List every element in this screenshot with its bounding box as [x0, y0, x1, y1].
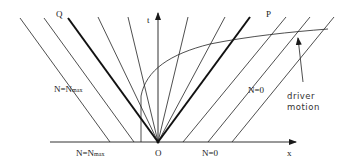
- annotation-motion: motion: [287, 103, 320, 112]
- origin-point: [157, 141, 160, 144]
- label-q: Q: [56, 10, 63, 19]
- label-upper-right-region: N=0: [248, 86, 264, 95]
- label-axis-right-region: N=0: [202, 149, 218, 158]
- label-origin: O: [155, 149, 162, 158]
- fan-characteristics: [98, 17, 225, 142]
- spacetime-diagram: [0, 0, 352, 165]
- line-p: [158, 17, 250, 142]
- left-characteristics: [20, 18, 134, 142]
- driver-motion-curve: [141, 29, 328, 142]
- label-upper-left-region: N=Nmax: [54, 85, 82, 94]
- annotation-driver: driver: [287, 92, 315, 101]
- line-q: [68, 18, 158, 142]
- label-p: P: [266, 10, 271, 19]
- label-axis-left-region: N=Nmax: [76, 149, 104, 158]
- label-t: t: [147, 16, 150, 25]
- label-x: x: [287, 149, 292, 158]
